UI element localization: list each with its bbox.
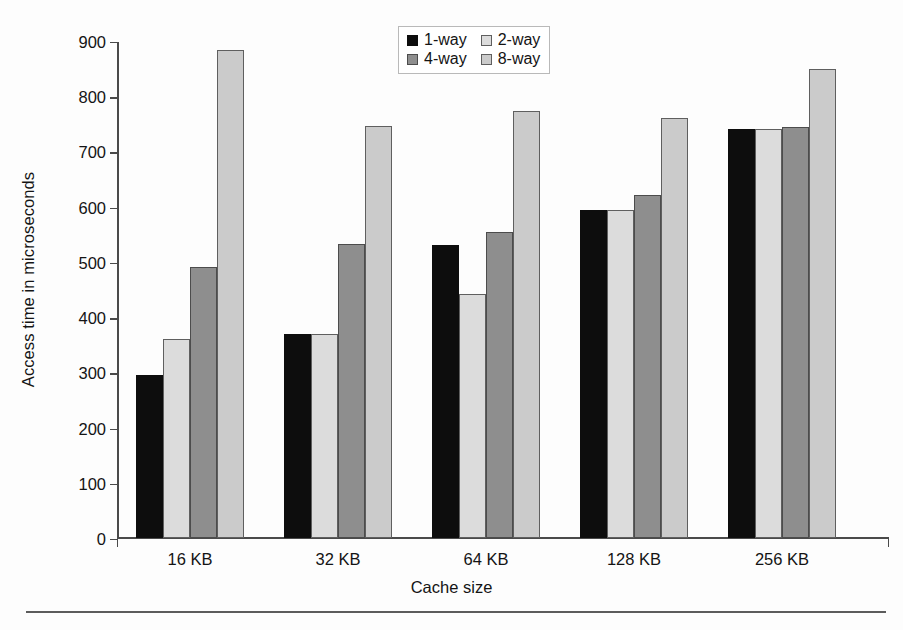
- y-axis-tick: [110, 373, 118, 374]
- legend-label: 4-way: [424, 50, 467, 68]
- y-axis-tick-label: 700: [78, 143, 106, 162]
- bar-group: [432, 42, 540, 538]
- legend-label: 8-way: [498, 50, 541, 68]
- bar: [163, 339, 190, 538]
- legend-swatch-icon: [407, 35, 418, 46]
- bar-group: [728, 42, 836, 538]
- y-axis-tick: [110, 263, 118, 264]
- x-axis-tick: [888, 539, 889, 547]
- legend-swatch-icon: [407, 54, 418, 65]
- x-axis-category-label: 16 KB: [168, 550, 213, 569]
- y-axis-tick: [110, 484, 118, 485]
- x-axis-category-label: 32 KB: [316, 550, 361, 569]
- chart-legend: 1-way2-way4-way8-way: [398, 26, 550, 74]
- x-axis-tick: [117, 539, 118, 547]
- y-axis-tick: [110, 208, 118, 209]
- legend-swatch-icon: [481, 54, 492, 65]
- y-axis-line: [117, 42, 119, 539]
- bar: [311, 334, 338, 538]
- bar: [432, 245, 459, 538]
- bottom-divider: [26, 611, 886, 613]
- y-axis-tick: [110, 42, 118, 43]
- legend-label: 1-way: [424, 31, 467, 49]
- y-axis-tick-label: 800: [78, 88, 106, 107]
- y-axis-tick-label: 100: [78, 474, 106, 493]
- bar: [728, 129, 755, 538]
- bar: [809, 69, 836, 538]
- legend-swatch-icon: [481, 35, 492, 46]
- y-axis-tick-label: 500: [78, 253, 106, 272]
- legend-entry: 2-way: [481, 31, 541, 49]
- bar-chart-figure: Access time in microseconds 010020030040…: [0, 0, 903, 630]
- y-axis-tick-label: 400: [78, 309, 106, 328]
- y-axis-tick: [110, 97, 118, 98]
- bar: [634, 195, 661, 538]
- y-axis-tick-label: 300: [78, 364, 106, 383]
- bar-group: [136, 42, 244, 538]
- bar: [782, 127, 809, 538]
- bar: [338, 244, 365, 538]
- bar: [217, 50, 244, 538]
- bar: [755, 129, 782, 538]
- bar-group: [284, 42, 392, 538]
- bar: [513, 111, 540, 538]
- bar-group: [580, 42, 688, 538]
- y-axis-tick: [110, 318, 118, 319]
- legend-entry: 8-way: [481, 50, 541, 68]
- y-axis-tick-label: 0: [97, 530, 106, 549]
- y-axis-tick-label: 900: [78, 33, 106, 52]
- x-axis-category-label: 128 KB: [607, 550, 661, 569]
- plot-area: 0100200300400500600700800900 16 KB32 KB6…: [117, 42, 889, 538]
- bar: [459, 294, 486, 538]
- bar: [136, 375, 163, 538]
- bar: [486, 232, 513, 538]
- y-axis-tick-label: 600: [78, 198, 106, 217]
- bar: [607, 210, 634, 538]
- bar: [661, 118, 688, 538]
- y-axis-tick-label: 200: [78, 419, 106, 438]
- legend-label: 2-way: [498, 31, 541, 49]
- x-axis-category-label: 256 KB: [755, 550, 809, 569]
- y-axis-tick: [110, 429, 118, 430]
- bar: [190, 267, 217, 538]
- legend-entry: 4-way: [407, 50, 467, 68]
- bar: [580, 210, 607, 538]
- bar: [365, 126, 392, 538]
- legend-entry: 1-way: [407, 31, 467, 49]
- bar: [284, 334, 311, 538]
- x-axis-category-label: 64 KB: [464, 550, 509, 569]
- y-axis-title: Access time in microseconds: [19, 70, 38, 490]
- y-axis-tick: [110, 152, 118, 153]
- x-axis-title: Cache size: [0, 578, 903, 597]
